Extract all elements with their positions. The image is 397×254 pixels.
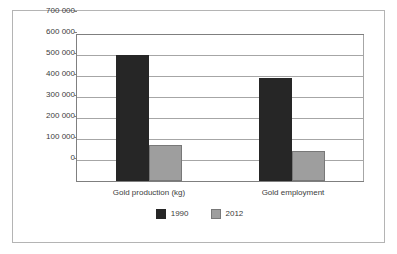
y-tick-label-600000: 600 000 (17, 28, 75, 36)
bar-2012-2 (292, 151, 325, 181)
y-tick-mark-700000 (74, 11, 77, 12)
legend-label-2012: 2012 (226, 209, 244, 219)
gridline-700000 (77, 34, 364, 35)
y-tick-mark-600000 (74, 32, 77, 33)
x-axis-category-labels: Gold production (kg)Gold employment (77, 188, 364, 204)
bar-1990-2 (259, 78, 292, 181)
plot-area (77, 34, 364, 181)
y-tick-label-200000: 200 000 (17, 112, 75, 120)
legend-item-2012[interactable]: 2012 (211, 209, 244, 219)
y-tick-label-400000: 400 000 (17, 70, 75, 78)
y-tick-label-500000: 500 000 (17, 49, 75, 57)
dark-square-swatch (156, 209, 166, 219)
y-tick-label-100000: 100 000 (17, 133, 75, 141)
legend-label-1990: 1990 (171, 209, 189, 219)
chart-legend: 19902012 (13, 209, 386, 219)
y-tick-label-0: 0 (17, 154, 75, 162)
gray-square-swatch (211, 209, 221, 219)
bar-2012-1 (149, 145, 182, 181)
y-tick-label-300000: 300 000 (17, 91, 75, 99)
bar-1990-1 (116, 55, 149, 181)
gridline-0 (77, 181, 364, 182)
y-axis-tick-labels: 700 000600 000500 000400 000300 000200 0… (13, 11, 75, 158)
legend-item-1990[interactable]: 1990 (156, 209, 189, 219)
category-label-2: Gold employment (221, 188, 365, 198)
category-label-1: Gold production (kg) (77, 188, 221, 198)
y-tick-label-700000: 700 000 (17, 7, 75, 15)
chart-figure: 700 000600 000500 000400 000300 000200 0… (12, 10, 385, 243)
